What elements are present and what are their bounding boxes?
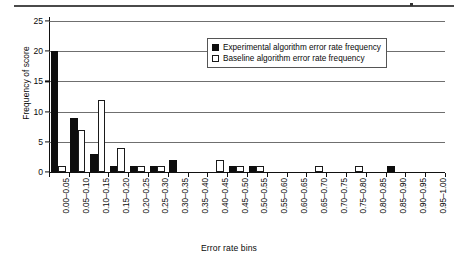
x-tick-mark-6 [168,173,169,177]
bar-group [405,22,425,172]
bar-experimental [150,166,158,172]
chart-figure: Frequency of score 0510152025 0.00–0.050… [0,0,458,264]
bar-baseline [216,160,224,172]
bar-experimental [130,166,138,172]
y-tick-label-25: 25 [33,16,43,26]
bar-experimental [387,166,395,172]
bar-baseline [355,166,363,172]
bar-group [89,22,109,172]
x-tick-label-13: 0.65–0.70 [320,178,329,214]
x-tick-mark-end [445,173,446,177]
x-tick-label-2: 0.10–0.15 [102,178,111,214]
y-tick-label-10: 10 [33,107,43,117]
bar-group [148,22,168,172]
bar-group [128,22,148,172]
x-tick-mark-10 [247,173,248,177]
x-tick-mark-5 [148,173,149,177]
x-tick-mark-13 [306,173,307,177]
x-tick-mark-1 [69,173,70,177]
y-tick-label-0: 0 [38,167,43,177]
x-tick-label-18: 0.90–0.95 [419,178,428,214]
legend-swatch-open-square-icon [212,55,219,62]
bar-experimental [90,154,98,172]
y-axis-title: Frequency of score [21,13,31,153]
bar-experimental [249,166,257,172]
bar-baseline [256,166,264,172]
bar-group [108,22,128,172]
x-tick-mark-17 [386,173,387,177]
bar-group [386,22,406,172]
x-tick-mark-3 [108,173,109,177]
x-tick-mark-9 [227,173,228,177]
x-tick-mark-7 [188,173,189,177]
bar-baseline [117,148,125,172]
bar-baseline [58,166,66,172]
x-tick-mark-11 [267,173,268,177]
bar-experimental [229,166,237,172]
bar-baseline [157,166,165,172]
x-tick-label-5: 0.25–0.30 [161,178,170,214]
x-tick-label-7: 0.35–0.40 [201,178,210,214]
x-axis-title: Error rate bins [0,243,458,253]
y-tick-label-20: 20 [33,46,43,56]
x-tick-mark-16 [366,173,367,177]
x-tick-label-17: 0.85–0.90 [399,178,408,214]
chart-legend: Experimental algorithm error rate freque… [207,38,387,68]
x-tick-label-19: 0.95–1.00 [439,178,448,214]
x-tick-label-11: 0.55–0.60 [280,178,289,214]
bar-group [168,22,188,172]
x-tick-label-14: 0.70–0.75 [340,178,349,214]
bar-group [188,22,208,172]
x-tick-label-8: 0.40–0.45 [221,178,230,214]
x-tick-mark-14 [326,173,327,177]
bar-baseline [315,166,323,172]
bar-experimental [169,160,177,172]
x-tick-mark-0 [49,173,50,177]
bar-experimental [110,166,118,172]
bar-baseline [78,130,86,172]
y-tick-label-5: 5 [38,137,43,147]
bar-baseline [98,100,106,172]
x-tick-label-16: 0.80–0.85 [379,178,388,214]
x-tick-label-4: 0.20–0.25 [142,178,151,214]
bar-group [69,22,89,172]
legend-item-experimental: Experimental algorithm error rate freque… [212,42,381,53]
bar-group [425,22,445,172]
legend-label-experimental: Experimental algorithm error rate freque… [223,42,381,53]
bar-baseline [137,166,145,172]
x-tick-mark-19 [425,173,426,177]
legend-label-baseline: Baseline algorithm error rate frequency [223,53,365,64]
x-tick-mark-15 [346,173,347,177]
legend-swatch-filled-square-icon [212,44,219,51]
x-tick-mark-2 [89,173,90,177]
y-tick-label-15: 15 [33,76,43,86]
x-tick-mark-8 [207,173,208,177]
x-tick-label-15: 0.75–0.80 [359,178,368,214]
bar-experimental [51,51,59,172]
bar-group [49,22,69,172]
x-tick-label-12: 0.60–0.65 [300,178,309,214]
x-tick-label-3: 0.15–0.20 [122,178,131,214]
x-tick-label-1: 0.05–0.10 [82,178,91,214]
legend-item-baseline: Baseline algorithm error rate frequency [212,53,381,64]
bar-baseline [236,166,244,172]
x-tick-label-10: 0.50–0.55 [260,178,269,214]
x-tick-mark-12 [287,173,288,177]
x-tick-mark-18 [405,173,406,177]
x-tick-label-6: 0.30–0.35 [181,178,190,214]
x-tick-label-0: 0.00–0.05 [62,178,71,214]
bar-experimental [70,118,78,172]
x-tick-mark-4 [128,173,129,177]
x-tick-label-9: 0.45–0.50 [241,178,250,214]
